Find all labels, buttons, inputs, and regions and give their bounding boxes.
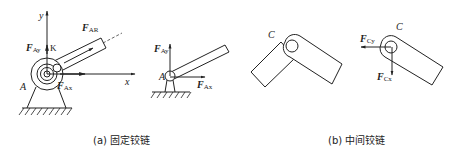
force-cx-label: FCx bbox=[376, 71, 392, 83]
axis-x-label: x bbox=[124, 76, 130, 87]
point-a-label-2: A bbox=[158, 71, 166, 82]
axis-y-label: y bbox=[38, 10, 44, 21]
force-ay-label: FAy bbox=[25, 42, 41, 54]
intermediate-hinge-assembled bbox=[251, 34, 342, 87]
force-ar-label: FAR bbox=[81, 22, 99, 34]
point-c-label-2: C bbox=[396, 21, 403, 32]
point-a-label: A bbox=[19, 81, 27, 92]
force-ax-label-2: FAx bbox=[196, 79, 213, 91]
force-ax-label: FAx bbox=[56, 80, 73, 92]
force-cy-label: FCy bbox=[359, 33, 375, 45]
point-c-label: C bbox=[268, 29, 275, 40]
fixed-hinge-detailed bbox=[19, 11, 135, 115]
force-ay-label-2: FAy bbox=[153, 43, 169, 55]
point-k-label: K bbox=[50, 43, 57, 53]
caption-a: (a) 固定铰链 bbox=[93, 132, 150, 147]
hinge-diagram: y x K A FAy FAx FAR bbox=[0, 0, 463, 150]
caption-b: (b) 中间铰链 bbox=[328, 132, 385, 147]
